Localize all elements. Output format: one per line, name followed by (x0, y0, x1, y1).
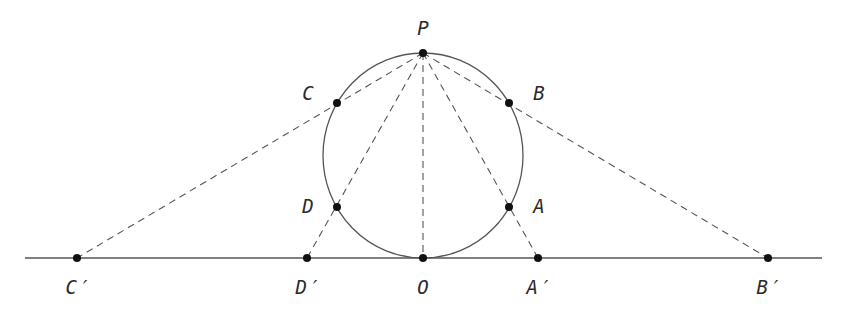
diagram-canvas: PCBDAOC′D′A′B′ (0, 0, 848, 317)
ray-P-Cp (77, 53, 423, 258)
point-O (419, 254, 427, 262)
point-Dp (303, 254, 311, 262)
ray-P-Ap (423, 53, 538, 258)
label-D: D (302, 197, 313, 216)
point-P (419, 49, 427, 57)
point-C (333, 99, 341, 107)
label-Cp: C′ (66, 278, 89, 297)
point-Ap (534, 254, 542, 262)
label-Dp: D′ (296, 278, 319, 297)
projection-diagram (0, 0, 848, 317)
label-P: P (417, 19, 428, 38)
projection-rays (77, 53, 768, 258)
label-Bp: B′ (757, 278, 780, 297)
ray-P-Dp (307, 53, 423, 258)
label-Ap: A′ (527, 278, 550, 297)
label-A: A (533, 197, 544, 216)
point-B (505, 99, 513, 107)
label-C: C (302, 84, 313, 103)
point-Cp (73, 254, 81, 262)
point-Bp (764, 254, 772, 262)
point-D (333, 203, 341, 211)
ray-P-Bp (423, 53, 768, 258)
label-O: O (417, 278, 428, 297)
point-A (505, 203, 513, 211)
label-B: B (533, 84, 544, 103)
